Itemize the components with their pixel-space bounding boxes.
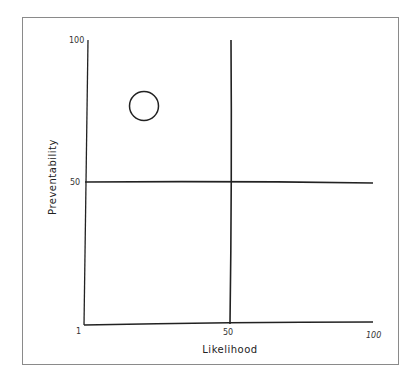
y-tick-1: 1 [76, 327, 81, 336]
y-tick-100: 100 [69, 36, 84, 45]
x-tick-50: 50 [223, 328, 233, 337]
data-point-circle [130, 92, 159, 121]
horizontal-midline [85, 182, 373, 183]
y-tick-50: 50 [70, 178, 80, 187]
quadrant-chart [0, 0, 420, 384]
x-axis [84, 322, 373, 325]
x-axis-label: Likelihood [202, 344, 257, 355]
x-tick-100: 100 [366, 331, 381, 340]
y-axis-label: Preventability [47, 139, 58, 215]
